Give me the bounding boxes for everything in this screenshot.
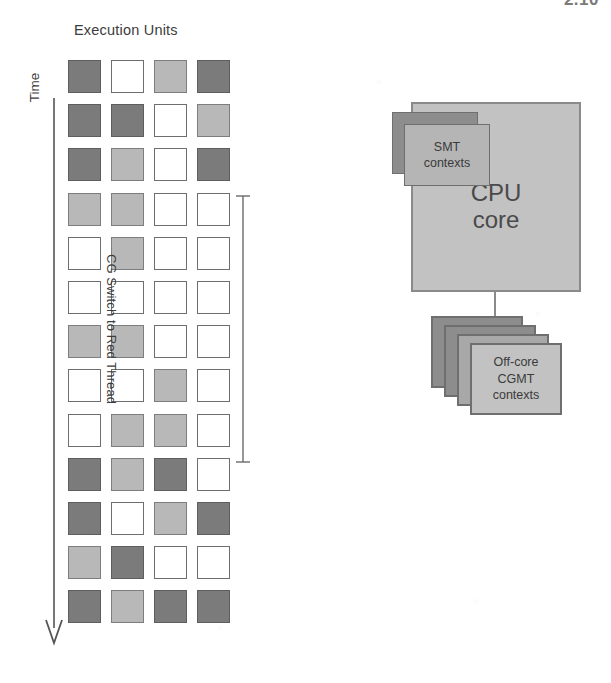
grid-cell-r11-c2 — [111, 502, 144, 535]
grid-cell-r11-c3 — [154, 502, 187, 535]
grid-row — [68, 104, 240, 148]
grid-cell-r3-c1 — [68, 148, 101, 181]
smt-contexts-label-line1: SMT — [434, 139, 460, 155]
cg-switch-bracket: CG Switch to Red Thread — [236, 195, 298, 463]
grid-row — [68, 60, 240, 104]
offcore-cgmt-label-line1: Off-core — [494, 354, 539, 371]
offcore-cgmt-label-line3: contexts — [493, 387, 540, 404]
grid-cell-r3-c4 — [197, 148, 230, 181]
grid-cell-r12-c3 — [154, 546, 187, 579]
cpu-core-label-line2: core — [413, 207, 579, 234]
grid-cell-r13-c1 — [68, 590, 101, 623]
grid-cell-r2-c2 — [111, 104, 144, 137]
grid-cell-r2-c1 — [68, 104, 101, 137]
smt-contexts-box: SMT contexts — [404, 124, 490, 186]
grid-row — [68, 458, 240, 502]
grid-row — [68, 546, 240, 590]
cg-switch-label: CG Switch to Red Thread — [0, 195, 246, 463]
grid-cell-r1-c4 — [197, 60, 230, 93]
grid-cell-r13-c2 — [111, 590, 144, 623]
offcore-cgmt-label-line2: CGMT — [498, 371, 535, 388]
execution-units-title: Execution Units — [74, 22, 178, 38]
grid-row — [68, 148, 240, 192]
grid-cell-r13-c4 — [197, 590, 230, 623]
grid-cell-r11-c4 — [197, 502, 230, 535]
smt-contexts-label-line2: contexts — [424, 155, 471, 171]
grid-cell-r12-c4 — [197, 546, 230, 579]
grid-cell-r3-c3 — [154, 148, 187, 181]
cpu-core-label: CPU core — [413, 180, 579, 234]
grid-cell-r1-c3 — [154, 60, 187, 93]
grid-row — [68, 590, 240, 634]
page-number-artifact: 2.10 — [564, 0, 599, 10]
grid-cell-r1-c2 — [111, 60, 144, 93]
grid-cell-r12-c2 — [111, 546, 144, 579]
grid-cell-r12-c1 — [68, 546, 101, 579]
grid-row — [68, 502, 240, 546]
grid-cell-r1-c1 — [68, 60, 101, 93]
time-axis-label: Time — [27, 58, 42, 118]
grid-cell-r3-c2 — [111, 148, 144, 181]
grid-cell-r2-c4 — [197, 104, 230, 137]
offcore-cgmt-box: Off-core CGMT contexts — [470, 343, 562, 415]
core-to-cgmt-connector — [494, 292, 496, 316]
grid-cell-r13-c3 — [154, 590, 187, 623]
grid-cell-r2-c3 — [154, 104, 187, 137]
grid-cell-r11-c1 — [68, 502, 101, 535]
